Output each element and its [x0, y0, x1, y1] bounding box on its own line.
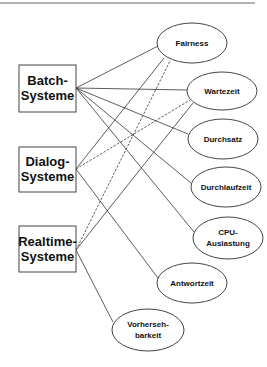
criterion-cpu-auslastung: CPU- Auslastung: [193, 217, 263, 259]
edge-dialog-antwortzeit: [76, 169, 158, 278]
criterion-durchlaufzeit: Durchlaufzeit: [191, 167, 261, 207]
edge-realtime-wartezeit: [76, 103, 193, 250]
edge-batch-durchsatz: [76, 88, 188, 134]
edge-dialog-fairness: [76, 58, 164, 169]
criterion-label-line1: Vorherseh-: [127, 320, 169, 329]
criterion-fairness: Fairness: [157, 23, 227, 63]
edge-batch-durchlaufzeit: [76, 88, 191, 183]
criterion-label: Antwortzeit: [170, 279, 214, 288]
system-box-dialog: Dialog- Systeme: [19, 147, 76, 192]
criterion-label-line2: barkeit: [135, 331, 162, 340]
criterion-vorhersehbarkeit: Vorherseh- barkeit: [112, 309, 184, 351]
criterion-label: Wartezeit: [204, 87, 240, 96]
criterion-label: Durchsatz: [204, 135, 243, 144]
system-label-line1: Realtime-: [18, 234, 77, 249]
edge-batch-cpu: [76, 88, 194, 232]
edge-realtime-vorhersehbarkeit: [76, 250, 113, 322]
scheduling-criteria-diagram: Batch- Systeme Dialog- Systeme Realtime-…: [0, 0, 267, 367]
criterion-label-line2: Auslastung: [206, 239, 250, 248]
system-box-realtime: Realtime- Systeme: [18, 226, 77, 272]
criterion-wartezeit: Wartezeit: [187, 72, 257, 110]
system-label-line2: Systeme: [21, 88, 74, 103]
criterion-antwortzeit: Antwortzeit: [157, 263, 227, 303]
system-label-line1: Batch-: [27, 73, 67, 88]
criterion-label: Fairness: [176, 39, 209, 48]
criterion-label-line1: CPU-: [218, 228, 238, 237]
edge-batch-wartezeit: [76, 88, 187, 90]
system-label-line1: Dialog-: [25, 154, 69, 169]
system-box-batch: Batch- Systeme: [19, 65, 76, 112]
criterion-label: Durchlaufzeit: [201, 183, 252, 192]
system-label-line2: Systeme: [21, 249, 74, 264]
criterion-durchsatz: Durchsatz: [188, 119, 258, 159]
system-label-line2: Systeme: [21, 169, 74, 184]
